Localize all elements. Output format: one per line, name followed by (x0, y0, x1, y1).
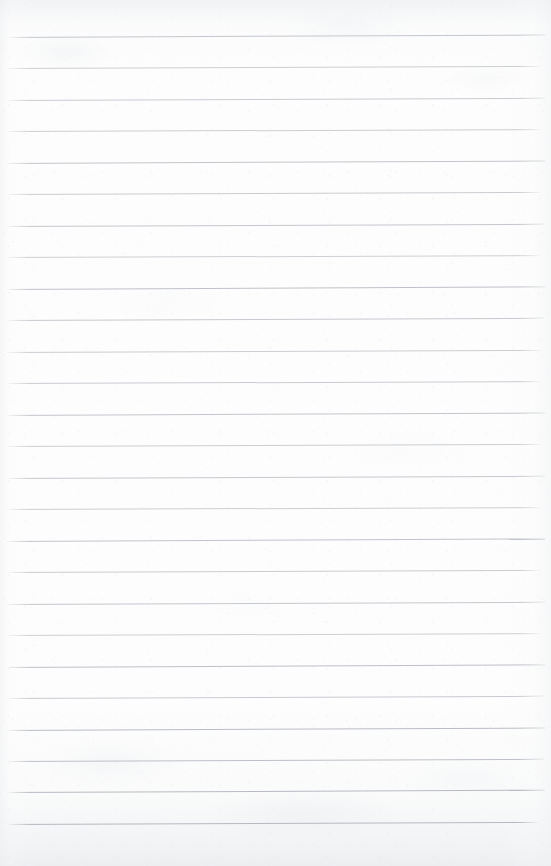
paper-background (0, 0, 551, 866)
scanned-notebook-page (0, 0, 551, 866)
